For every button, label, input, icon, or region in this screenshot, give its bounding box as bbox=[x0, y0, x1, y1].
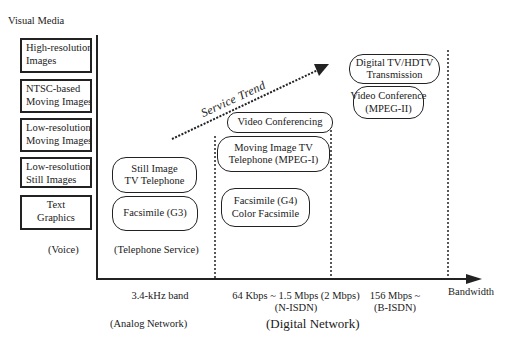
band-line1: 3.4-kHz band bbox=[110, 290, 210, 302]
bandwidth-band-analog: 3.4-kHz band bbox=[110, 290, 210, 302]
service-line2: (MPEG-II) bbox=[365, 103, 412, 116]
media-category-low-res-still-images: Low-resolution Still Images bbox=[20, 157, 92, 188]
service-video-conferencing: Video Conferencing bbox=[227, 112, 333, 133]
service-line2: Color Facsimile bbox=[232, 208, 299, 221]
media-category-line2: Moving Images bbox=[26, 96, 90, 109]
service-digital-tv-hdtv: Digital TV/HDTV Transmission bbox=[349, 54, 440, 84]
service-line2: Telephone (MPEG-I) bbox=[229, 154, 318, 167]
analog-network-label: (Analog Network) bbox=[110, 318, 187, 330]
service-line1: Video Conferencing bbox=[238, 116, 323, 129]
service-trend-arrowhead bbox=[314, 64, 329, 76]
service-line1: Facsimile (G3) bbox=[123, 207, 186, 220]
media-category-line1: Low-resolution bbox=[26, 161, 90, 174]
media-category-line2: Moving Images bbox=[26, 135, 90, 148]
media-category-line2: Graphics bbox=[22, 212, 90, 225]
bandwidth-band-bisdn: 156 Mbps ~ (B-ISDN) bbox=[355, 290, 435, 314]
media-category-text-graphics: Text Graphics bbox=[20, 195, 92, 230]
media-category-line1: NTSC-based bbox=[26, 83, 90, 96]
media-category-line2: Images bbox=[26, 55, 90, 68]
service-line1: Video Conference bbox=[350, 90, 426, 103]
media-category-line1: Text bbox=[22, 199, 90, 212]
service-line2: TV Telephone bbox=[125, 175, 185, 188]
media-category-line1: Low-resolution bbox=[26, 122, 90, 135]
media-category-line2: Still Images bbox=[26, 174, 90, 187]
service-facsimile-g3: Facsimile (G3) bbox=[112, 196, 198, 231]
media-category-low-res-moving-images: Low-resolution Moving Images bbox=[20, 118, 92, 152]
service-line1: Moving Image TV bbox=[234, 142, 313, 155]
x-axis-arrowhead bbox=[466, 274, 482, 284]
band-line1: 156 Mbps ~ bbox=[355, 290, 435, 302]
y-axis-title: Visual Media bbox=[8, 15, 64, 27]
band-line2: (B-ISDN) bbox=[355, 302, 435, 314]
service-line1: Digital TV/HDTV bbox=[356, 57, 434, 70]
service-still-image-tv-telephone: Still Image TV Telephone bbox=[112, 157, 197, 193]
service-facsimile-g4: Facsimile (G4) Color Facsimile bbox=[221, 188, 310, 227]
media-category-line1: High-resolution bbox=[26, 42, 90, 55]
service-line2: Transmission bbox=[366, 69, 422, 82]
x-axis-title: Bandwidth bbox=[448, 286, 494, 298]
service-moving-image-tv-telephone: Moving Image TV Telephone (MPEG-I) bbox=[217, 136, 330, 172]
media-category-ntsc-moving-images: NTSC-based Moving Images bbox=[20, 79, 92, 113]
voice-label: (Voice) bbox=[48, 244, 79, 256]
telephone-service-label: (Telephone Service) bbox=[114, 244, 199, 256]
service-line1: Facsimile (G4) bbox=[234, 195, 297, 208]
service-video-conference-mpeg2: Video Conference (MPEG-II) bbox=[353, 86, 424, 119]
media-category-high-resolution-images: High-resolution Images bbox=[20, 38, 92, 73]
service-line1: Still Image bbox=[131, 163, 177, 176]
digital-network-label: (Digital Network) bbox=[266, 316, 360, 332]
